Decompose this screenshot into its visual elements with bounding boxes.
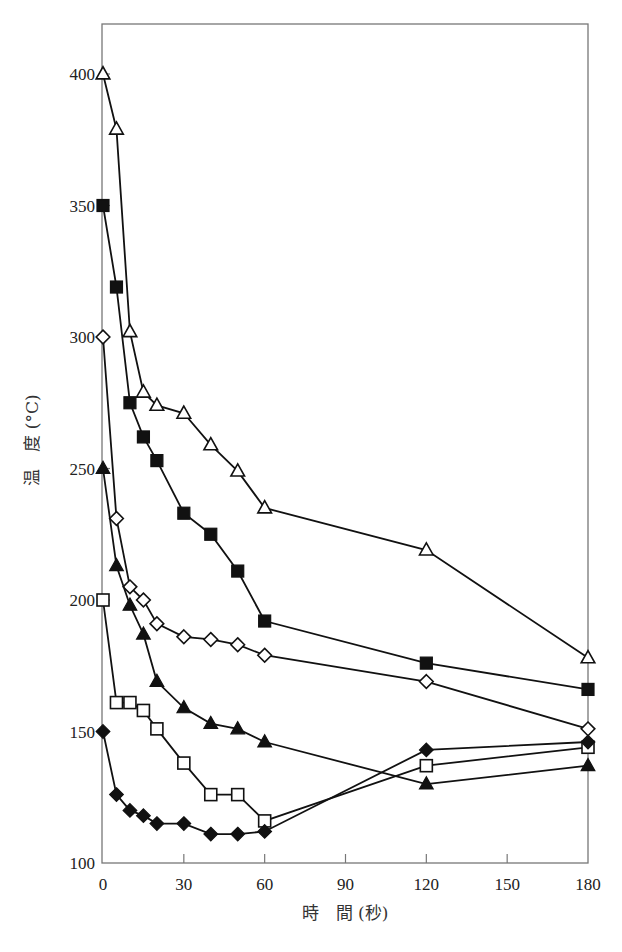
data-point-open-diamond: [420, 675, 434, 689]
data-point-filled-square: [582, 683, 594, 695]
data-point-open-square: [110, 697, 122, 709]
series-filled-square: [97, 200, 594, 696]
data-point-filled-square: [137, 431, 149, 443]
data-point-open-diamond: [204, 633, 218, 647]
data-point-filled-square: [151, 455, 163, 467]
series-filled-triangle: [96, 461, 595, 789]
x-tick-label: 60: [256, 875, 273, 894]
data-point-filled-square: [110, 281, 122, 293]
y-axis-title: 温 度 (°C): [22, 394, 42, 485]
data-point-open-diamond: [110, 512, 124, 526]
series-layer: [96, 67, 595, 841]
plot-frame: [102, 24, 588, 863]
data-point-open-triangle: [110, 122, 124, 134]
x-axis-title: 時 間 (秒): [302, 903, 389, 923]
data-point-filled-square: [259, 615, 271, 627]
series-line: [103, 469, 588, 785]
series-filled-diamond: [96, 725, 595, 841]
data-point-open-diamond: [581, 722, 595, 736]
data-point-filled-diamond: [420, 743, 434, 757]
y-tick-label: 250: [70, 460, 96, 479]
temperature-time-chart: 0306090120150180100150200250300350400 時 …: [0, 0, 622, 952]
data-point-filled-triangle: [204, 716, 218, 728]
y-tick-label: 200: [70, 591, 96, 610]
data-point-open-triangle: [581, 651, 595, 663]
data-point-open-diamond: [177, 630, 191, 644]
x-tick-label: 150: [494, 875, 520, 894]
data-point-filled-square: [178, 507, 190, 519]
series-open-triangle: [96, 67, 595, 663]
axis-ticks: [102, 74, 507, 863]
data-point-filled-square: [205, 528, 217, 540]
data-point-filled-square: [97, 200, 109, 212]
y-tick-label: 100: [70, 854, 96, 873]
data-point-filled-diamond: [150, 817, 164, 831]
series-line: [103, 206, 588, 690]
data-point-filled-triangle: [96, 461, 110, 473]
series-line: [103, 74, 588, 658]
axis-tick-labels: 0306090120150180100150200250300350400: [70, 65, 601, 894]
data-point-filled-triangle: [137, 627, 151, 639]
data-point-open-square: [178, 757, 190, 769]
data-point-filled-square: [124, 397, 136, 409]
data-point-open-square: [420, 760, 432, 772]
series-open-square: [97, 594, 594, 827]
y-tick-label: 300: [70, 328, 96, 347]
series-line: [103, 337, 588, 729]
data-point-filled-diamond: [137, 809, 151, 823]
data-point-open-diamond: [96, 330, 110, 344]
x-tick-label: 180: [575, 875, 601, 894]
data-point-filled-diamond: [231, 827, 245, 841]
x-tick-label: 90: [337, 875, 354, 894]
data-point-open-triangle: [96, 67, 110, 79]
data-point-open-square: [232, 789, 244, 801]
series-line: [103, 732, 588, 835]
y-tick-label: 150: [70, 723, 96, 742]
x-tick-label: 0: [99, 875, 108, 894]
data-point-open-square: [151, 723, 163, 735]
data-point-open-triangle: [137, 385, 151, 397]
data-point-open-triangle: [123, 324, 137, 336]
data-point-filled-triangle: [123, 598, 137, 610]
y-tick-label: 350: [70, 197, 96, 216]
data-point-open-square: [124, 697, 136, 709]
data-point-open-diamond: [258, 648, 272, 662]
data-point-filled-square: [420, 657, 432, 669]
data-point-open-square: [137, 704, 149, 716]
data-point-filled-diamond: [177, 817, 191, 831]
data-point-filled-diamond: [96, 725, 110, 739]
series-open-diamond: [96, 330, 595, 736]
data-point-filled-triangle: [581, 758, 595, 770]
data-point-filled-triangle: [258, 735, 272, 747]
data-point-open-diamond: [231, 638, 245, 652]
data-point-filled-diamond: [204, 827, 218, 841]
data-point-open-square: [97, 594, 109, 606]
data-point-filled-triangle: [110, 559, 124, 571]
x-tick-label: 120: [414, 875, 440, 894]
data-point-open-square: [205, 789, 217, 801]
data-point-open-diamond: [150, 617, 164, 631]
data-point-filled-triangle: [150, 674, 164, 686]
y-tick-label: 400: [70, 65, 96, 84]
x-tick-label: 30: [175, 875, 192, 894]
data-point-filled-square: [232, 565, 244, 577]
